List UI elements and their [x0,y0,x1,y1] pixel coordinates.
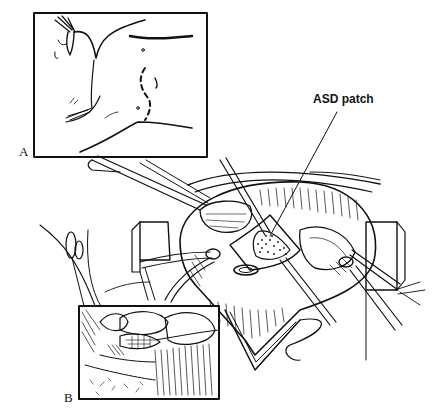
patch-texture [257,235,287,255]
line-art [0,0,438,410]
panel-b-drawing [79,306,219,399]
asd-patch-label: ASD patch [313,92,374,106]
panel-a-drawing [34,13,207,157]
panel-b-label: B [64,390,73,406]
surgical-illustration: A B ASD patch [0,0,438,410]
asd-patch-leader-line [270,112,337,236]
panel-a-label: A [19,144,28,160]
